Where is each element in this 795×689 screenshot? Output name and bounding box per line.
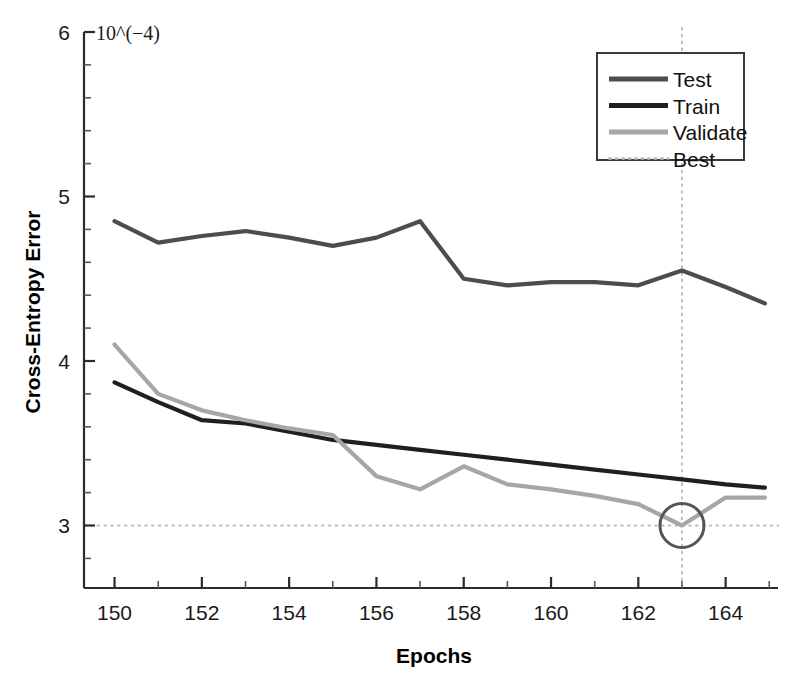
x-tick-label: 150 <box>97 601 132 624</box>
y-axis-title: Cross-Entropy Error <box>21 210 44 413</box>
x-tick-label: 160 <box>534 601 569 624</box>
x-tick-label: 154 <box>272 601 307 624</box>
legend-label-best: Best <box>673 148 715 171</box>
chart-figure: 3456 150152154156158160162164 10^(−4) Ep… <box>0 0 795 689</box>
x-tick-label: 158 <box>446 601 481 624</box>
legend-label-train: Train <box>673 95 720 118</box>
x-tick-label: 164 <box>708 601 743 624</box>
cross-entropy-error-plot: 3456 150152154156158160162164 10^(−4) Ep… <box>0 0 795 689</box>
y-tick-label: 5 <box>58 185 70 208</box>
legend-label-validate: Validate <box>673 121 747 144</box>
x-tick-label: 156 <box>359 601 394 624</box>
chart-legend[interactable]: TestTrainValidateBest <box>597 53 747 171</box>
y-tick-label: 4 <box>58 350 70 373</box>
y-tick-label: 3 <box>58 514 70 537</box>
y-tick-label: 6 <box>58 21 70 44</box>
legend-label-test: Test <box>673 68 712 91</box>
x-tick-label: 152 <box>184 601 219 624</box>
y-axis-exponent-label: 10^(−4) <box>96 22 160 45</box>
x-axis-title: Epochs <box>396 644 472 667</box>
x-tick-label: 162 <box>621 601 656 624</box>
